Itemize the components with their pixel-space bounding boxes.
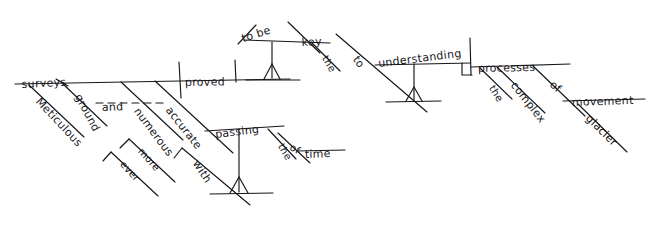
- sentence-diagram-canvas: surveysMeticulousgroundandnumerousmoreev…: [0, 0, 648, 225]
- pedestal-tri-right-understanding: [414, 87, 422, 101]
- modifier-line-complex: [497, 67, 545, 113]
- modifier-line-meticulous: [29, 85, 84, 137]
- bracket-more: [120, 139, 129, 148]
- object-baseline-processes: [471, 64, 570, 67]
- modifier-line-the-processes: [480, 68, 512, 99]
- modifier-line-ground: [62, 83, 107, 126]
- modifier-line-numerous: [121, 82, 183, 140]
- prep-object-baseline-passing: [205, 126, 284, 131]
- pedestal-tri-right-tobe: [272, 64, 280, 79]
- pedestal-base-passing: [210, 193, 273, 194]
- preposition-line-to: [336, 34, 427, 112]
- pedestal-tri-left-tobe: [264, 64, 272, 79]
- modifier-line-the-key: [311, 42, 340, 71]
- subject-verb-divider: [179, 62, 181, 98]
- pedestal-tri-left-passing: [230, 177, 239, 193]
- modifier-line-glacier: [578, 104, 627, 152]
- diagram-lines: [0, 0, 648, 225]
- modifier-line-accurate: [155, 81, 233, 153]
- bracket-with: [174, 148, 182, 158]
- verb-complement-divider: [235, 60, 236, 82]
- pedestal-tri-left-understanding: [406, 87, 414, 101]
- prep-object-baseline-movement: [563, 99, 645, 101]
- pedestal-tri-right-passing: [239, 177, 248, 193]
- modifier-line-ever: [111, 152, 158, 196]
- complement-baseline-tobe-key: [244, 40, 330, 43]
- gerund-object-divider: [470, 38, 471, 75]
- bracket-ever: [103, 152, 111, 161]
- gerund-baseline-understanding: [375, 63, 470, 65]
- prep-object-baseline-time: [297, 150, 345, 151]
- modifier-line-the-passing: [268, 129, 296, 159]
- pedestal-base-understanding: [386, 101, 441, 102]
- preposition-line-of-time: [278, 133, 310, 163]
- preposition-line-with: [182, 148, 250, 205]
- infinitive-slant-tobe: [238, 25, 256, 44]
- divider-tobe-key: [288, 22, 320, 53]
